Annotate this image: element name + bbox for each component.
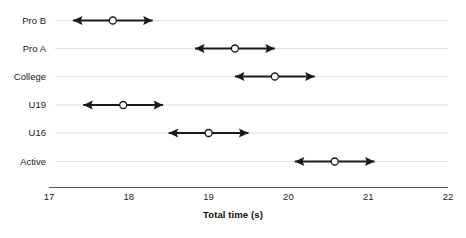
data-marker xyxy=(271,73,278,80)
category-label-pro-a: Pro A xyxy=(0,44,46,54)
x-tick-label-17: 17 xyxy=(44,192,55,202)
data-point-group xyxy=(195,44,275,53)
category-label-u19: U19 xyxy=(0,100,46,110)
category-label-active: Active xyxy=(0,157,46,167)
category-label-college: College xyxy=(0,72,46,82)
x-axis-title: Total time (s) xyxy=(0,209,466,220)
data-point-group xyxy=(169,128,249,137)
data-point-group xyxy=(73,16,153,25)
x-tick-label-20: 20 xyxy=(283,192,294,202)
data-marker xyxy=(205,130,212,137)
x-tick-label-19: 19 xyxy=(203,192,214,202)
gridlines-group xyxy=(55,21,448,162)
x-tick-label-18: 18 xyxy=(124,192,135,202)
category-label-u16: U16 xyxy=(0,128,46,138)
data-point-group xyxy=(235,72,315,81)
data-marker xyxy=(231,45,238,52)
data-marker xyxy=(331,158,338,165)
data-point-group xyxy=(295,157,375,166)
x-tick-label-21: 21 xyxy=(363,192,374,202)
data-point-group xyxy=(83,100,163,109)
chart-container: Pro BPro ACollegeU19U16Active 1718192021… xyxy=(0,0,466,238)
chart-plot-area xyxy=(0,0,466,238)
data-marker xyxy=(120,102,127,109)
x-tick-label-22: 22 xyxy=(443,192,454,202)
category-label-pro-b: Pro B xyxy=(0,16,46,26)
data-series-group xyxy=(73,16,375,166)
data-marker xyxy=(109,17,116,24)
